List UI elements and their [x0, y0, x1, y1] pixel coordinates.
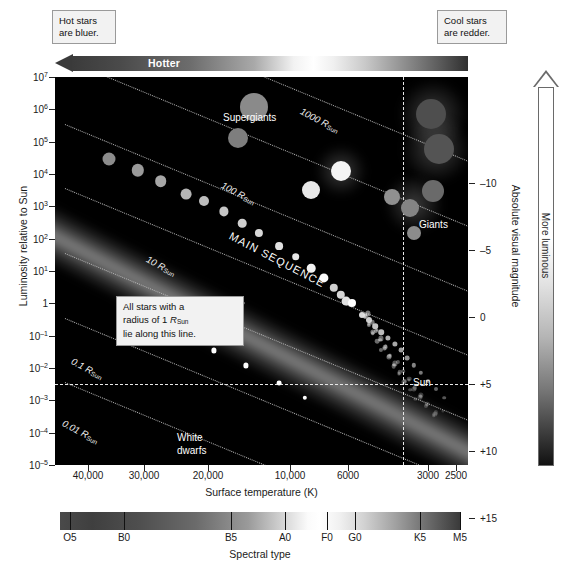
right-tick-label: +5 — [480, 379, 491, 390]
star-marker-faint — [401, 369, 405, 373]
y-tick-label: 102 — [33, 232, 48, 244]
star-marker — [442, 396, 446, 400]
star-marker — [398, 348, 403, 353]
star-marker — [255, 229, 263, 237]
spectral-tick-label: B5 — [225, 532, 237, 543]
star-marker — [302, 396, 306, 400]
x-tick-mark — [348, 465, 349, 471]
temperature-gradient-bar: Hotter — [55, 54, 468, 73]
rsun-note-r: R — [170, 314, 177, 325]
star-marker — [330, 284, 338, 292]
right-tick-label: –10 — [480, 178, 497, 189]
more-luminous-arrow: More luminous — [533, 70, 559, 466]
right-axis-title: Absolute visual magnitude — [510, 116, 522, 376]
star-marker-faint — [378, 336, 383, 341]
star-marker — [392, 341, 397, 346]
right-tick-label: –5 — [480, 245, 491, 256]
supergiants-label: Supergiants — [223, 112, 276, 123]
star-marker — [434, 387, 438, 391]
right-tick-mark — [469, 518, 475, 519]
spectral-tick-mark — [285, 512, 286, 530]
star-marker — [131, 164, 143, 176]
radius-isoline-label: 100 RSun — [219, 180, 257, 207]
rsun-annotation-box: All stars with a radius of 1 RSun lie al… — [116, 296, 244, 346]
x-tick-label: 2500 — [445, 470, 467, 481]
hr-diagram-plot[interactable]: 1000 RSun100 RSun10 RSun1 RSun0.1 RSun0.… — [55, 77, 468, 465]
y-tick-label: 1 — [42, 298, 48, 309]
star-marker — [411, 363, 415, 367]
spectral-tick-mark — [327, 512, 328, 530]
x-tick-label: 40,000 — [73, 470, 104, 481]
right-tick-mark — [469, 451, 475, 452]
cool-stars-callout: Cool stars are redder. — [437, 10, 507, 44]
y-tick-mark — [49, 368, 55, 369]
star-marker-faint — [425, 401, 430, 406]
y-tick-label: 10–2 — [29, 362, 48, 374]
radius-isoline-label: 0.01 RSun — [60, 418, 100, 446]
star-marker — [275, 242, 283, 250]
x-tick-label: 30,000 — [129, 470, 160, 481]
y-axis-title: Luminosity relative to Sun — [17, 116, 29, 376]
x-tick-label: 20,000 — [193, 470, 224, 481]
star-marker — [348, 299, 356, 307]
temperature-gradient — [72, 56, 468, 71]
y-tick-mark — [49, 400, 55, 401]
spectral-tick-mark — [231, 512, 232, 530]
star-marker — [418, 371, 422, 375]
spectral-tick-mark — [124, 512, 125, 530]
star-marker — [211, 348, 216, 353]
x-axis-title: Surface temperature (K) — [55, 486, 468, 498]
y-tick-mark — [49, 206, 55, 207]
x-tick-mark — [456, 465, 457, 471]
star-marker — [292, 253, 300, 261]
spectral-tick-label: M5 — [453, 532, 467, 543]
star-marker — [102, 152, 115, 165]
y-tick-label: 10–1 — [29, 329, 48, 341]
star-marker — [331, 161, 351, 181]
star-marker-faint — [384, 344, 388, 348]
y-tick-label: 10–3 — [29, 394, 48, 406]
star-marker — [199, 196, 209, 206]
y-tick-mark — [49, 142, 55, 143]
giants-label: Giants — [419, 219, 448, 230]
star-marker — [181, 189, 192, 200]
y-tick-label: 101 — [33, 265, 48, 277]
y-tick-mark — [49, 239, 55, 240]
y-tick-label: 103 — [33, 200, 48, 212]
star-marker — [302, 181, 320, 199]
y-tick-mark — [49, 433, 55, 434]
hotter-arrow-icon — [55, 54, 73, 72]
x-tick-mark — [144, 465, 145, 471]
y-tick-mark — [49, 303, 55, 304]
rsun-note-line2-prefix: radius of 1 — [123, 314, 170, 325]
right-tick-label: 0 — [480, 312, 486, 323]
x-tick-mark — [290, 465, 291, 471]
star-marker — [228, 128, 248, 148]
star-marker — [276, 380, 281, 385]
y-tick-label: 107 — [33, 71, 48, 83]
x-tick-label: 6000 — [337, 470, 359, 481]
right-tick-mark — [469, 384, 475, 385]
spectral-tick-mark — [460, 512, 461, 530]
x-tick-mark — [208, 465, 209, 471]
right-tick-label: +10 — [480, 446, 497, 457]
x-tick-mark — [88, 465, 89, 471]
star-marker — [405, 356, 410, 361]
radius-isoline-label: 0.1 RSun — [69, 356, 105, 382]
spectral-type-bar — [60, 512, 460, 530]
spectral-tick-label: K5 — [414, 532, 426, 543]
star-marker — [238, 219, 247, 228]
spectral-tick-label: B0 — [118, 532, 130, 543]
sun-label: Sun — [413, 377, 431, 388]
star-marker-faint — [419, 392, 424, 397]
star-marker — [155, 175, 167, 187]
y-tick-mark — [49, 109, 55, 110]
star-marker — [378, 329, 384, 335]
spectral-tick-mark — [355, 512, 356, 530]
star-marker — [385, 335, 390, 340]
spectral-tick-label: F0 — [321, 532, 333, 543]
star-marker — [384, 189, 400, 205]
sun-horizontal-guide — [55, 384, 468, 385]
star-marker — [416, 99, 446, 129]
radius-isoline-label: 1000 RSun — [298, 106, 341, 135]
